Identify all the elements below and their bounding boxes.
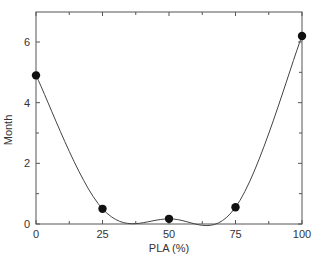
x-tick-labels: 0255075100 [33,228,311,240]
x-axis-label: PLA (%) [149,242,189,254]
data-curve [36,36,302,226]
data-points [32,32,306,223]
x-tick-label: 50 [163,228,175,240]
line-chart: 0255075100 0246 PLA (%) Month [0,0,318,265]
data-point-marker [298,32,306,40]
axes-box [36,12,302,224]
y-tick-label: 6 [24,36,30,48]
plot-frame [36,12,302,224]
y-tick-label: 0 [24,218,30,230]
axis-ticks [36,12,302,224]
data-point-marker [165,215,173,223]
x-tick-label: 25 [96,228,108,240]
y-tick-label: 4 [24,97,30,109]
data-point-marker [98,205,106,213]
y-axis-label: Month [2,115,14,146]
data-point-marker [32,71,40,79]
y-tick-label: 2 [24,157,30,169]
data-point-marker [231,203,239,211]
x-tick-label: 75 [229,228,241,240]
y-tick-labels: 0246 [24,36,30,230]
x-tick-label: 100 [293,228,311,240]
x-tick-label: 0 [33,228,39,240]
